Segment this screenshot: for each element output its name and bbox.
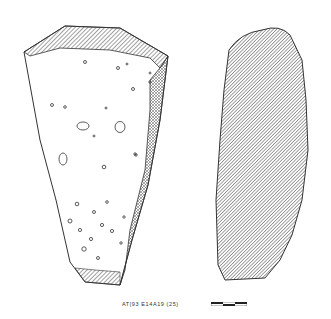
face-view — [24, 26, 168, 285]
artifact-drawing — [0, 0, 331, 319]
profile-view — [216, 28, 308, 280]
specimen-caption: AT|93 E14A19 (25) — [122, 301, 179, 307]
scale-bar — [211, 302, 247, 306]
